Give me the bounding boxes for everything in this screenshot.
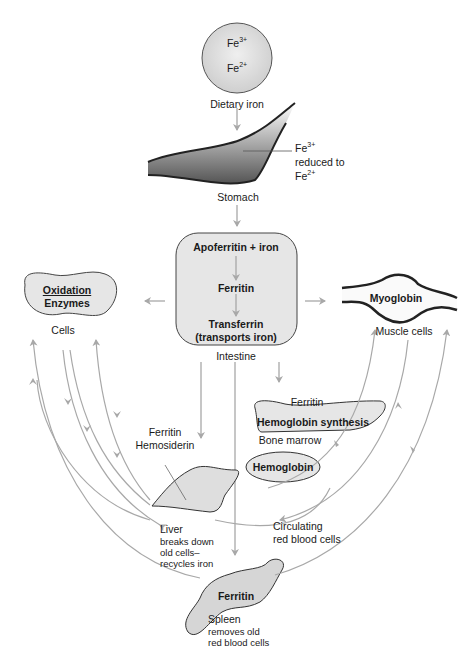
liver-label: Liver <box>160 523 183 536</box>
curve-cells-to-liver <box>63 350 160 525</box>
dietary-iron-circle <box>202 23 272 93</box>
iron-metabolism-diagram: Fe3+ Fe2+ Dietary iron Fe3+ reduced to F… <box>0 0 473 648</box>
spleen-label: Spleen <box>208 613 241 626</box>
liver-desc-3: recycles iron <box>160 558 213 569</box>
liver-ferritin-label: Ferritin <box>149 426 182 439</box>
transferrin-label: Transferrin <box>209 318 264 331</box>
rbc-label-2: red blood cells <box>273 533 341 546</box>
stomach-label: Stomach <box>217 191 258 204</box>
stomach-note: Fe3+ reduced to Fe2+ <box>295 141 345 183</box>
spleen-desc-2: red blood cells <box>208 637 269 648</box>
hemosiderin-label: Hemosiderin <box>136 439 195 452</box>
fe3-label: Fe3+ <box>227 37 247 50</box>
hemoglobin-label: Hemoglobin <box>253 461 314 474</box>
bone-marrow-label: Bone marrow <box>259 434 321 447</box>
myoglobin-label: Myoglobin <box>370 292 423 305</box>
apoferritin-label: Apoferritin + iron <box>193 241 278 254</box>
liver-desc-1: breaks down <box>160 536 214 547</box>
hemoglobin-synthesis-label: Hemoglobin synthesis <box>257 416 369 429</box>
muscle-cells-label: Muscle cells <box>375 325 432 338</box>
oxidation-label: Oxidation <box>43 284 91 297</box>
enzymes-label: Enzymes <box>44 297 90 310</box>
curve-liver-to-cells <box>96 340 150 500</box>
transferrin-sub-label: (transports iron) <box>195 331 277 344</box>
intestine-label: Intestine <box>216 350 256 363</box>
fe2-label: Fe2+ <box>227 62 247 75</box>
dietary-iron-label: Dietary iron <box>210 98 264 111</box>
stomach-shape <box>148 103 295 183</box>
spleen-ferritin-label: Ferritin <box>218 590 254 603</box>
liver-desc-2: old cells– <box>160 547 200 558</box>
ferritin-label: Ferritin <box>218 282 254 295</box>
rbc-label-1: Circulating <box>273 520 323 533</box>
cells-label: Cells <box>51 324 74 337</box>
bm-ferritin-label: Ferritin <box>291 396 324 409</box>
spleen-desc-1: removes old <box>208 626 260 637</box>
liver-shape <box>152 466 239 512</box>
